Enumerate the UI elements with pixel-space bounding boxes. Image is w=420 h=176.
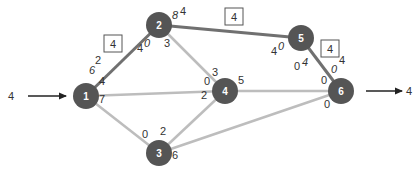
capacity-label: 7 <box>99 93 105 105</box>
path-flow-box: 4 <box>104 35 122 52</box>
capacity-label: 4 <box>137 42 143 54</box>
capacity-label: 0 <box>278 40 285 52</box>
path-flow-value: 4 <box>231 11 237 23</box>
capacity-label: 8 <box>172 9 179 21</box>
capacity-label: 0 <box>331 63 338 75</box>
edge-1-3 <box>86 96 159 153</box>
capacity-label: 0 <box>142 128 148 140</box>
node-label: 2 <box>156 20 162 31</box>
edge-2-4 <box>159 25 225 91</box>
capacity-label: 2 <box>160 125 166 137</box>
capacity-label: 6 <box>89 64 96 76</box>
capacity-label: 3 <box>164 37 170 49</box>
capacity-label: 0 <box>321 74 327 86</box>
capacity-label: 4 <box>302 56 308 68</box>
capacity-label: 4 <box>99 75 105 87</box>
capacity-label: 0 <box>204 75 210 87</box>
capacity-label: 4 <box>180 5 186 17</box>
sink-flow-label: 4 <box>406 85 412 97</box>
path-flow-box: 4 <box>321 40 339 57</box>
capacity-label: 4 <box>271 45 277 57</box>
capacity-label: 2 <box>95 54 101 66</box>
node-6: 6 <box>328 78 354 104</box>
node-2: 2 <box>146 12 172 38</box>
edge-2-5 <box>159 25 301 38</box>
node-label: 4 <box>222 86 228 97</box>
edge-3-4 <box>159 91 225 153</box>
capacity-label: 4 <box>339 54 345 66</box>
capacity-label: 6 <box>172 149 178 161</box>
capacity-label: 0 <box>144 37 151 49</box>
node-label: 6 <box>338 86 344 97</box>
node-4: 4 <box>212 78 238 104</box>
path-flow-value: 4 <box>327 43 333 55</box>
edge-3-6 <box>159 91 341 153</box>
node-1: 1 <box>73 83 99 109</box>
node-3: 3 <box>146 140 172 166</box>
capacity-label: 2 <box>201 89 207 101</box>
node-label: 5 <box>298 33 304 44</box>
path-flow-box: 4 <box>225 8 243 25</box>
capacity-label: 5 <box>238 74 244 86</box>
flow-network-diagram: 4 4 444 264084340044047032500026 123456 <box>0 0 420 176</box>
node-label: 1 <box>83 91 89 102</box>
source-flow-label: 4 <box>8 90 14 102</box>
capacity-label: 3 <box>212 66 218 78</box>
capacity-label: 0 <box>324 98 330 110</box>
capacity-label: 0 <box>294 60 300 72</box>
node-label: 3 <box>156 148 162 159</box>
path-flow-value: 4 <box>110 38 116 50</box>
node-5: 5 <box>288 25 314 51</box>
